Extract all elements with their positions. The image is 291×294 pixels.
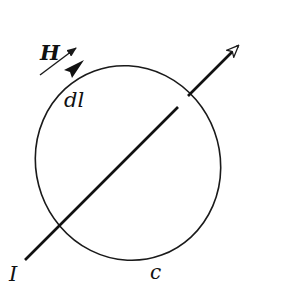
current-wire-lower (25, 107, 178, 260)
contour-loop (8, 39, 248, 286)
element-label-dl: dl (64, 88, 84, 112)
contour-label-c: c (150, 260, 161, 284)
current-label-i: I (9, 262, 17, 286)
current-wire-upper (188, 46, 238, 96)
dl-arrow-icon (64, 60, 84, 78)
ampere-law-diagram: H dl I c (0, 0, 291, 294)
field-label-h: H (40, 40, 60, 65)
